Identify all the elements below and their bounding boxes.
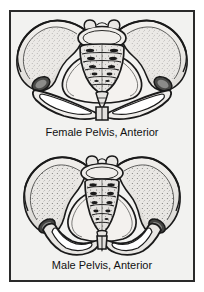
- male-pelvis-caption: Male Pelvis, Anterior: [11, 259, 193, 271]
- l5-spinous-process-male: [98, 159, 106, 161]
- l5-spinous-process: [97, 23, 107, 25]
- female-pelvis-illustration: [11, 12, 193, 124]
- figure-male-pelvis: Male Pelvis, Anterior: [11, 152, 193, 282]
- male-pelvis-illustration: [11, 152, 193, 257]
- illustration-plate: Female Pelvis, Anterior: [9, 10, 195, 282]
- female-pelvis-caption: Female Pelvis, Anterior: [11, 126, 193, 138]
- figure-female-pelvis: Female Pelvis, Anterior: [11, 12, 193, 152]
